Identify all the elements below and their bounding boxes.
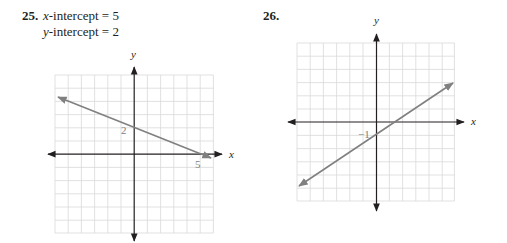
y-intercept-annotation-25: 2 xyxy=(121,124,127,136)
graph-25: x y 2 5 xyxy=(48,48,234,241)
y-intercept-annotation-26: −1 xyxy=(358,128,370,140)
x-axis-label-25: x xyxy=(228,148,234,160)
x-axis-label-26: x xyxy=(470,115,476,127)
x-intercept-annotation-25: 5 xyxy=(195,158,201,170)
graph-26: x y −1 xyxy=(288,14,476,211)
y-axis-label-26: y xyxy=(373,14,379,26)
y-axis-label-25: y xyxy=(130,48,136,60)
graphs-canvas: x y 2 5 x y −1 xyxy=(0,0,507,243)
